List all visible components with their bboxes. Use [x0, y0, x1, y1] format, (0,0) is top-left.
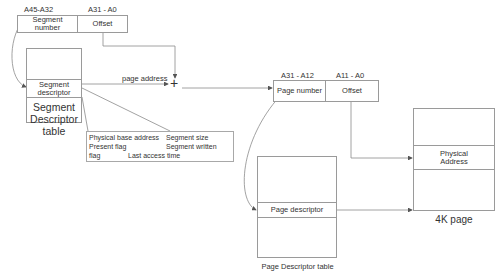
field-last-access-time: Last access time — [128, 152, 180, 159]
page-descriptor-table: Page descriptor — [257, 156, 337, 258]
descriptor-detail-line-1 — [82, 88, 170, 131]
page-address-label: page address — [122, 74, 167, 83]
page-offset-field: Offset — [326, 81, 378, 101]
page-number-field: Page number — [274, 81, 326, 101]
page-frame: Physical Address — [413, 108, 495, 211]
segment-bits-label: A45-A32 — [24, 5, 53, 14]
page-table-caption: Page Descriptor table — [250, 262, 345, 271]
segment-offset-field: Offset — [78, 16, 127, 32]
field-physical-base-address: Physical base address — [89, 134, 159, 141]
page-offset-bits-label: A11 - A0 — [336, 71, 364, 80]
adder-plus-icon: + — [170, 76, 178, 90]
segment-offset-bits-label: A31 - A0 — [88, 5, 117, 14]
segment-descriptor-row: Segment descriptor — [27, 79, 81, 98]
offset-to-adder-arrow — [103, 32, 175, 78]
segment-descriptor-table: Segment descriptor Segment Descriptor ta… — [26, 48, 82, 123]
field-present-flag: Present flag — [89, 143, 126, 150]
physical-address-row: Physical Address — [414, 145, 494, 170]
linear-address-register: Page number Offset — [273, 80, 379, 102]
field-segment-size: Segment size — [166, 134, 208, 141]
segment-descriptor-detail: Physical base address Segment size Prese… — [86, 131, 234, 162]
page-bits-label: A31 - A12 — [281, 71, 314, 80]
page-frame-caption: 4K page — [413, 214, 495, 225]
segment-table-caption: Segment Descriptor table — [23, 101, 85, 137]
field-flag: flag — [89, 152, 100, 159]
field-segment-written: Segment written — [166, 143, 217, 150]
logical-address-register: Segment number Offset — [17, 15, 128, 33]
offset-to-physical-arrow — [351, 101, 412, 158]
segment-number-field: Segment number — [18, 16, 78, 32]
page-descriptor-row: Page descriptor — [258, 202, 336, 218]
